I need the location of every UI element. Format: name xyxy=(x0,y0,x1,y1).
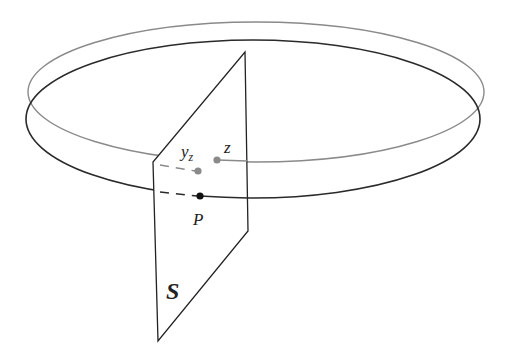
point-p xyxy=(196,192,203,199)
point-y-z xyxy=(194,167,201,174)
label-s: S xyxy=(166,278,179,304)
label-y-main: y xyxy=(179,142,189,161)
orbit-section-diagram: z yz P S xyxy=(0,0,506,358)
label-y-subscript: z xyxy=(188,150,194,164)
label-z: z xyxy=(223,138,231,157)
gray-orbit xyxy=(28,22,484,162)
point-z xyxy=(213,156,220,163)
diagram-canvas: z yz P S xyxy=(0,0,506,358)
black-orbit xyxy=(26,40,480,198)
label-p: P xyxy=(192,210,203,229)
gray-orbit-front-segment xyxy=(217,160,247,161)
